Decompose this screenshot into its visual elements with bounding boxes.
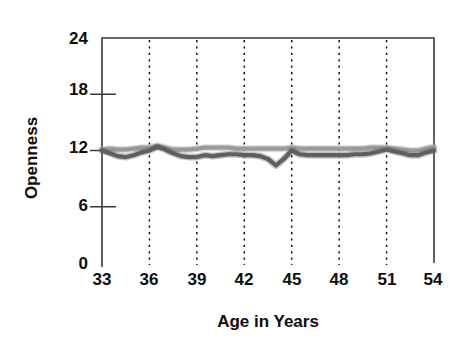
- plot-area: [0, 0, 457, 356]
- y-axis-ticks: [90, 94, 116, 267]
- data-series: [102, 146, 434, 166]
- openness-by-age-chart: Openness Age in Years 24 18 12 6 0 33 36…: [0, 0, 457, 356]
